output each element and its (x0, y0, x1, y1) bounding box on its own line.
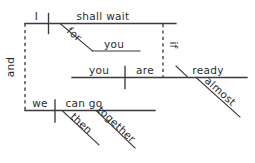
label-subordinate-subject-you: you (89, 64, 109, 76)
label-prep-object-you: you (104, 38, 124, 50)
label-subject-i: I (35, 10, 38, 22)
label-preposition-for: for (65, 24, 85, 43)
predicate-adjective-slant (176, 66, 188, 78)
sentence-diagram: I shall wait for you you are ready almos… (0, 0, 255, 163)
label-predicate-adjective-ready: ready (192, 64, 223, 76)
diagram-canvas: I shall wait for you you are ready almos… (0, 0, 255, 163)
label-conjunction-and: and (4, 57, 16, 78)
label-adverb-together: together (95, 103, 138, 145)
label-adverb-almost: almost (203, 74, 239, 108)
label-subject-we: we (32, 97, 48, 109)
label-predicate-can-go: can go (65, 97, 102, 109)
label-conjunction-if: if (168, 41, 180, 48)
label-verb-are: are (136, 64, 154, 76)
label-adverb-then: then (68, 110, 95, 136)
label-predicate-shall-wait: shall wait (77, 10, 130, 22)
